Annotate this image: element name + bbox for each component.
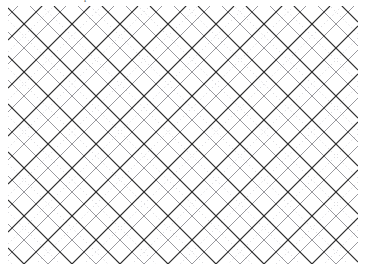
lattice-diagram — [0, 0, 366, 274]
clipped-top-glyph: p — [84, 0, 89, 2]
figure-root: p — [0, 0, 366, 274]
